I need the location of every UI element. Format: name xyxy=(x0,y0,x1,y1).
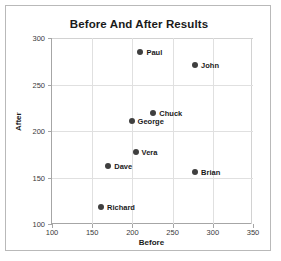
tick-y xyxy=(48,131,52,132)
scatter-point-label: Dave xyxy=(114,162,132,171)
gridline-horizontal xyxy=(52,85,253,86)
gridline-vertical xyxy=(173,38,174,224)
scatter-point-label: John xyxy=(201,60,219,69)
tick-label-y: 300 xyxy=(32,34,45,43)
gridline-horizontal xyxy=(52,178,253,179)
scatter-point[interactable] xyxy=(133,149,139,155)
gridline-vertical xyxy=(92,38,93,224)
scatter-point-label: Paul xyxy=(146,47,162,56)
tick-y xyxy=(48,85,52,86)
gridline-vertical xyxy=(132,38,133,224)
tick-y xyxy=(48,38,52,39)
axis-title-y: After xyxy=(14,112,23,131)
tick-label-y: 150 xyxy=(32,173,45,182)
tick-label-y: 250 xyxy=(32,80,45,89)
tick-label-x: 300 xyxy=(207,228,220,237)
scatter-point-label: Vera xyxy=(142,148,158,157)
tick-label-y: 200 xyxy=(32,127,45,136)
scatter-point[interactable] xyxy=(98,204,104,210)
chart-title: Before And After Results xyxy=(6,18,272,30)
scatter-point[interactable] xyxy=(129,118,135,124)
scatter-point-label: George xyxy=(138,116,164,125)
tick-label-x: 350 xyxy=(247,228,260,237)
chart-frame: Before And After Results 100150200250300… xyxy=(5,5,271,251)
gridline-horizontal xyxy=(52,131,253,132)
scatter-point-label: Brian xyxy=(201,167,220,176)
axis-title-x: Before xyxy=(51,238,252,247)
plot-border-top xyxy=(52,38,253,39)
tick-label-x: 100 xyxy=(46,228,59,237)
tick-label-x: 200 xyxy=(126,228,139,237)
tick-y xyxy=(48,178,52,179)
plot-area: 100150200250300100150200250300350 PaulJo… xyxy=(51,38,252,224)
scatter-point[interactable] xyxy=(192,62,198,68)
tick-label-y: 100 xyxy=(32,220,45,229)
scatter-point[interactable] xyxy=(192,169,198,175)
scatter-point[interactable] xyxy=(137,49,143,55)
scatter-point-label: Richard xyxy=(107,203,135,212)
scatter-point[interactable] xyxy=(105,163,111,169)
tick-label-x: 250 xyxy=(166,228,179,237)
tick-label-x: 150 xyxy=(86,228,99,237)
